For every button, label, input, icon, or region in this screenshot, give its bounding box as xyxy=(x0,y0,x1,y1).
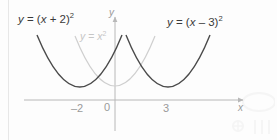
curve-y-equals-x-minus-3-squared xyxy=(126,35,210,87)
x-tick-label-3: 3 xyxy=(163,103,169,114)
equation-label-reference-parabola: y = x2 xyxy=(80,31,106,42)
curve-y-equals-x-plus-2-squared xyxy=(37,35,122,87)
equation-label-left-parabola: y = (x + 2)2 xyxy=(18,14,74,26)
equation-right-exponent: 2 xyxy=(218,14,222,23)
equation-mid-eq: = xyxy=(85,30,97,42)
equation-label-right-parabola: y = (x – 3)2 xyxy=(167,17,223,29)
watermark-icon xyxy=(229,86,275,138)
equation-left-op: + 2) xyxy=(46,13,69,25)
parabola-translations-figure: y = (x + 2)2 y = (x – 3)2 y = x2 –2 0 3 … xyxy=(0,0,277,140)
equation-right-eq: = ( xyxy=(173,16,190,28)
equation-left-exponent: 2 xyxy=(70,11,74,20)
equation-right-op: – 3) xyxy=(195,16,218,28)
origin-label: 0 xyxy=(104,102,110,113)
y-axis-label: y xyxy=(109,8,114,18)
equation-mid-exponent: 2 xyxy=(102,30,106,37)
x-tick-label-minus-2: –2 xyxy=(71,103,83,114)
equation-left-eq: = ( xyxy=(24,13,41,25)
